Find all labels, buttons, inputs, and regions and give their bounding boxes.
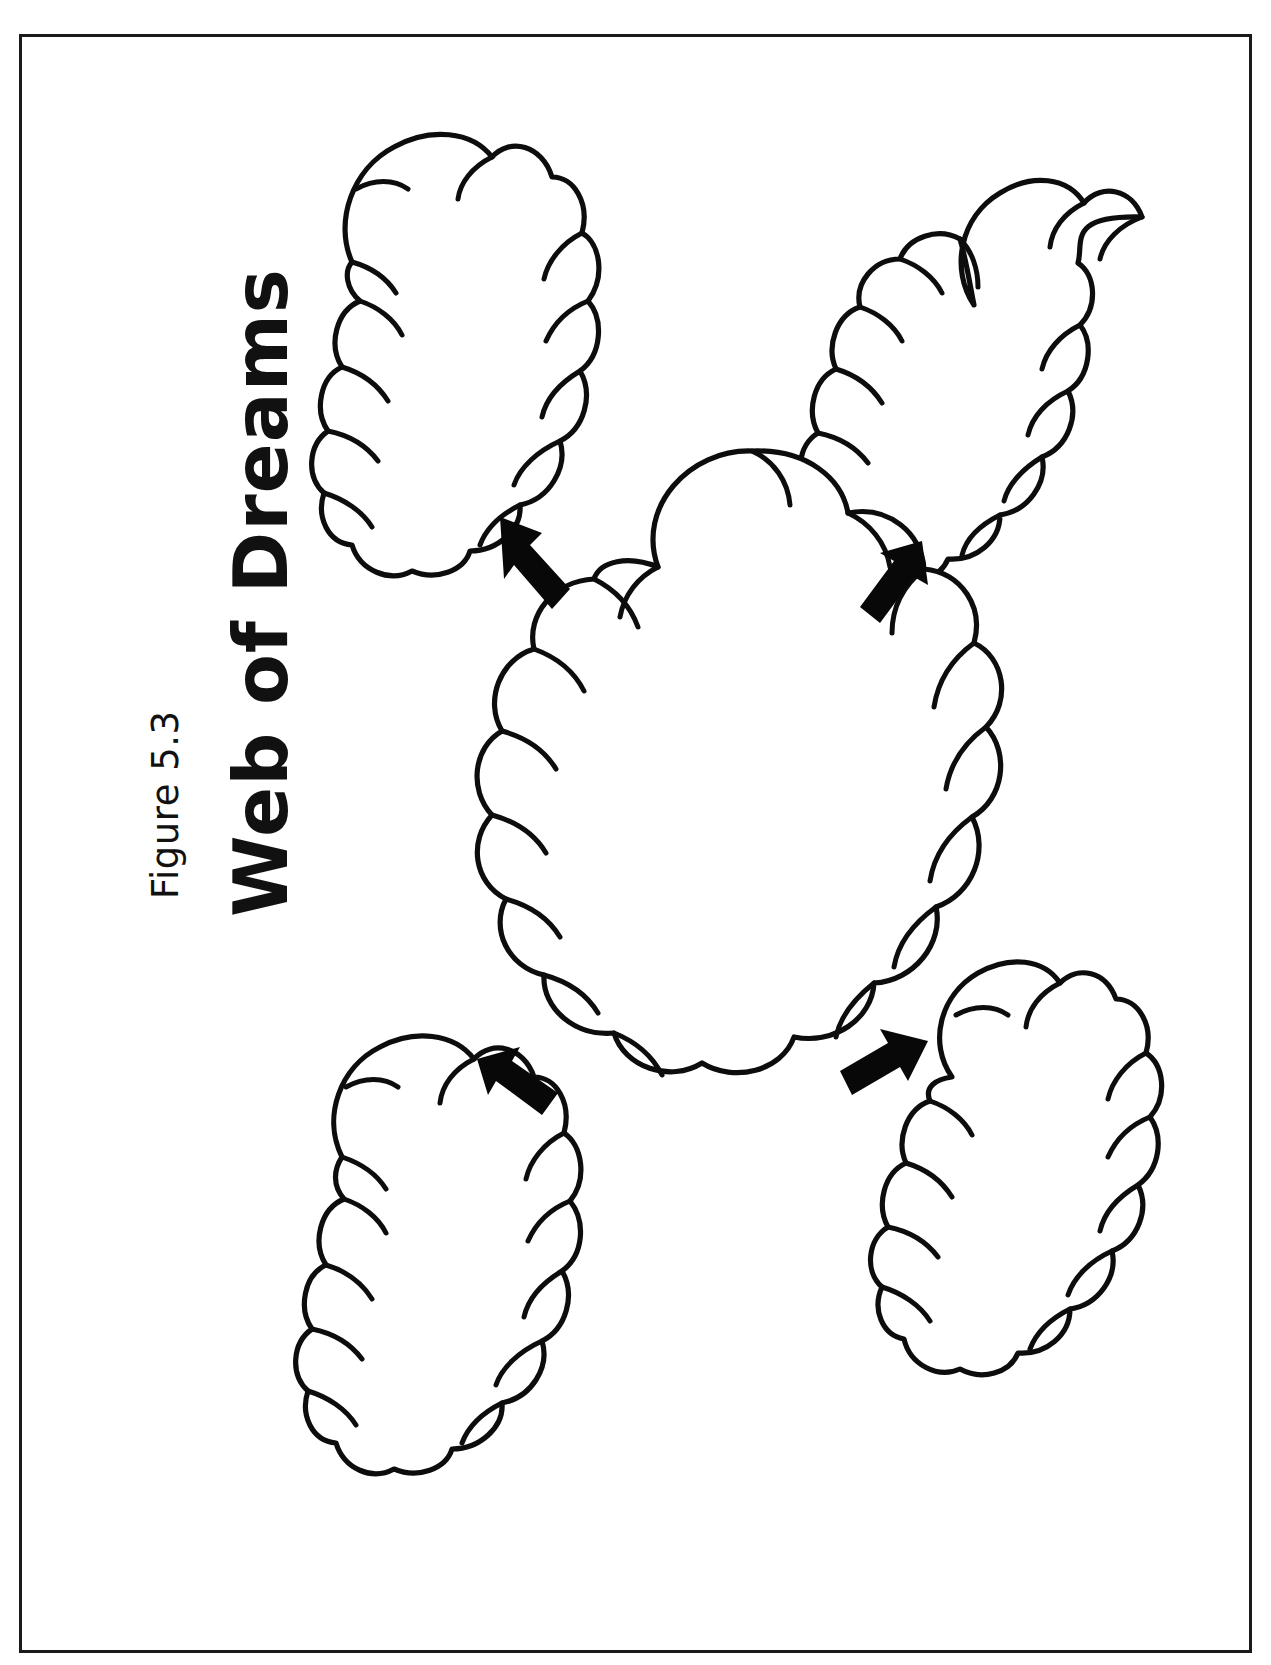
arrow-to-top-left[interactable]	[500, 517, 570, 609]
cloud-bottom-right[interactable]	[871, 962, 1162, 1375]
web-of-dreams-svg	[22, 37, 1255, 1656]
page-border-frame: Figure 5.3 Web of Dreams	[19, 34, 1252, 1653]
worksheet-page: Figure 5.3 Web of Dreams	[0, 0, 1271, 1665]
arrow-to-bottom-right[interactable]	[840, 1029, 928, 1095]
diagram-canvas	[22, 37, 1255, 1656]
cloud-top-left[interactable]	[312, 134, 599, 575]
